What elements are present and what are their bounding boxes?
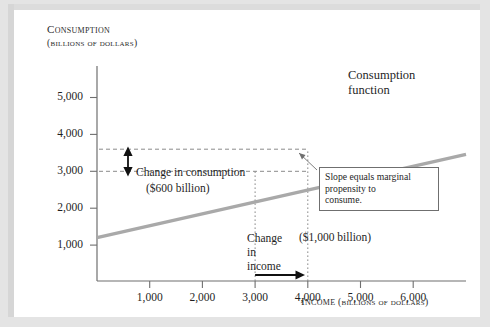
- y-axis-title-main: Consumption: [47, 22, 138, 36]
- change-in-consumption-value: ($600 billion): [136, 180, 245, 196]
- change-in-income-line2: in: [247, 245, 282, 259]
- y-tick-label-3000: 3,000: [37, 164, 83, 176]
- figure-panel: Consumption (billions of dollars) Income…: [14, 10, 480, 317]
- consumption-function-label-line1: Consumption: [348, 68, 415, 83]
- change-in-income-line3: income: [247, 259, 282, 273]
- y-axis-title-units: (billions of dollars): [47, 36, 138, 50]
- consumption-function-label-line2: function: [348, 83, 415, 98]
- change-consumption-arrow-down-icon: [123, 167, 132, 177]
- x-tick-label-5000: 5,000: [336, 291, 386, 303]
- y-tick-label-2000: 2,000: [37, 201, 83, 213]
- consumption-function-label: Consumption function: [348, 68, 415, 98]
- y-axis-title: Consumption (billions of dollars): [47, 22, 138, 50]
- change-in-income-annotation: Change in income: [247, 231, 282, 273]
- x-tick-label-4000: 4,000: [283, 291, 333, 303]
- chart-plot-area: Consumption (billions of dollars) Income…: [14, 10, 480, 317]
- y-tick-label-4000: 4,000: [37, 127, 83, 139]
- change-income-arrow-right-icon: [296, 270, 306, 279]
- slope-note-line3: consume.: [325, 194, 433, 206]
- change-in-income-line1: Change: [247, 231, 282, 245]
- slope-note-line1: Slope equals marginal: [325, 171, 433, 183]
- figure-frame: Consumption (billions of dollars) Income…: [0, 0, 490, 327]
- x-tick-label-2000: 2,000: [177, 291, 227, 303]
- slope-note-box: Slope equals marginal propensity to cons…: [319, 167, 439, 211]
- change-in-consumption-label: Change in consumption: [136, 166, 245, 178]
- y-tick-label-1000: 1,000: [37, 238, 83, 250]
- y-tick-label-5000: 5,000: [37, 90, 83, 102]
- x-tick-label-3000: 3,000: [230, 291, 280, 303]
- change-in-income-value: ($1,000 billion): [299, 231, 371, 243]
- slope-note-line2: propensity to: [325, 183, 433, 195]
- x-tick-label-6000: 6,000: [388, 291, 438, 303]
- change-consumption-arrow-up-icon: [123, 147, 132, 157]
- change-in-consumption-annotation: Change in consumption ($600 billion): [136, 164, 245, 196]
- x-tick-label-1000: 1,000: [125, 291, 175, 303]
